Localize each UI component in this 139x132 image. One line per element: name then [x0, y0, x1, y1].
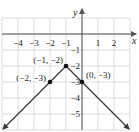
x-tick-label: 2	[112, 38, 117, 48]
x-tick-label: −3	[29, 38, 39, 48]
y-tick-label: −4	[70, 93, 80, 103]
data-point	[48, 80, 53, 85]
x-axis-label: x	[131, 35, 137, 46]
labeled-points: (−1, −2)(−2, −3)(0, −3)	[16, 55, 110, 84]
point-label: (−2, −3)	[16, 73, 46, 83]
graph-canvas: xy −4−3−2−112−1−2−3−4−5 (−1, −2)(−2, −3)…	[0, 0, 139, 132]
y-axis-label: y	[72, 7, 78, 18]
y-tick-label: −5	[70, 109, 80, 119]
x-tick-label: −1	[61, 38, 71, 48]
x-tick-label: 1	[96, 38, 101, 48]
x-tick-label: −2	[45, 38, 55, 48]
data-point	[64, 64, 69, 69]
y-tick-label: −2	[70, 61, 80, 71]
x-tick-label: −4	[13, 38, 23, 48]
y-tick-label: −1	[70, 45, 80, 55]
data-point	[80, 80, 85, 85]
point-label: (−1, −2)	[33, 55, 63, 65]
point-label: (0, −3)	[86, 70, 111, 80]
coordinate-graph: xy −4−3−2−112−1−2−3−4−5 (−1, −2)(−2, −3)…	[0, 0, 139, 132]
